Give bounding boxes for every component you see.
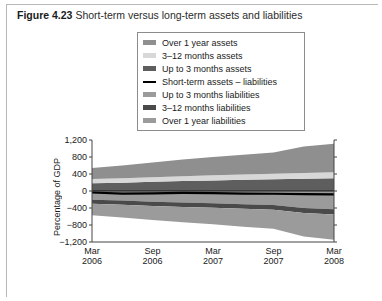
legend-item: Over 1 year liabilities [138, 114, 304, 127]
legend-swatch-icon [143, 81, 156, 83]
legend-swatch-icon [143, 53, 156, 58]
y-tick-label: −400 [67, 203, 87, 213]
legend-swatch-icon [143, 40, 156, 45]
figure-source-note [17, 294, 367, 301]
y-tick-label: 0 [82, 186, 87, 196]
legend-item-label: Over 1 year assets [162, 38, 238, 48]
page-left-rule [6, 4, 7, 297]
x-tick-label-year: 2006 [142, 256, 162, 266]
x-tick-label-year: 2008 [324, 256, 344, 266]
y-tick-label: −1,200 [59, 237, 87, 247]
x-tick-label-year: 2007 [203, 256, 223, 266]
y-tick-label: 800 [72, 152, 87, 162]
legend-item: 3–12 months assets [138, 49, 304, 62]
y-tick-label: −800 [67, 220, 87, 230]
legend-item-label: 3–12 months liabilities [162, 103, 251, 113]
chart-legend: Over 1 year assets3–12 months assetsUp t… [137, 32, 305, 131]
x-tick-label-month: Mar [84, 246, 100, 256]
legend-item-label: 3–12 months assets [162, 51, 243, 61]
x-tick-label-month: Mar [205, 246, 221, 256]
figure-number: Figure 4.23 [17, 9, 72, 21]
x-tick-label-year: 2006 [82, 256, 102, 266]
legend-swatch-icon [143, 66, 156, 71]
figure-page: Figure 4.23 Short-term versus long-term … [0, 0, 382, 301]
legend-item: Up to 3 months assets [138, 62, 304, 75]
x-tick-label-month: Sep [144, 246, 160, 256]
chart-area: Percentage of GDP 1,2008004000−400−800−1… [52, 136, 374, 266]
legend-swatch-icon [143, 105, 156, 110]
legend-item: Over 1 year assets [138, 36, 304, 49]
page-top-rule [6, 4, 378, 5]
legend-item: Short-term assets – liabilities [138, 75, 304, 88]
legend-item-label: Short-term assets – liabilities [162, 77, 277, 87]
legend-swatch-icon [143, 118, 156, 123]
y-tick-label: 1,200 [64, 136, 87, 145]
legend-item-label: Up to 3 months liabilities [162, 90, 260, 100]
legend-swatch-icon [143, 92, 156, 97]
figure-title-text: Short-term versus long-term assets and l… [75, 9, 302, 21]
x-tick-label-month: Sep [265, 246, 281, 256]
area-chart-plot: 1,2008004000−400−800−1,200Mar2006Sep2006… [52, 136, 374, 266]
legend-item-label: Over 1 year liabilities [162, 116, 246, 126]
figure-title: Figure 4.23 Short-term versus long-term … [17, 9, 302, 22]
legend-item-label: Up to 3 months assets [162, 64, 252, 74]
legend-item: Up to 3 months liabilities [138, 88, 304, 101]
legend-item: 3–12 months liabilities [138, 101, 304, 114]
y-tick-label: 400 [72, 169, 87, 179]
x-tick-label-month: Mar [326, 246, 342, 256]
x-tick-label-year: 2007 [263, 256, 283, 266]
